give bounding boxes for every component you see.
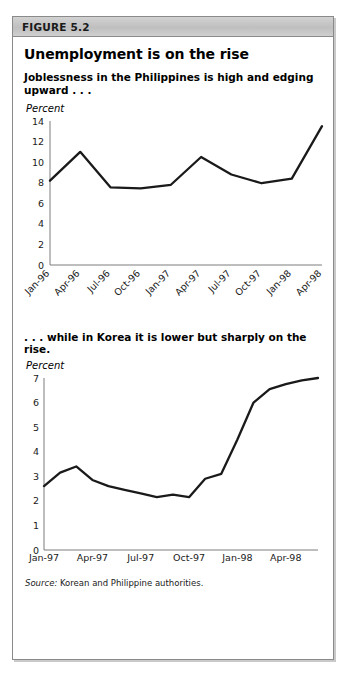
y-axis-tick-label: 7 [33, 373, 39, 384]
y-axis-tick-label: 10 [32, 157, 44, 168]
philippines-unemployment-chart: 02468101214Jan-96Apr-96Jul-96Oct-96Jan-9… [24, 115, 324, 323]
y-axis-tick-label: 2 [33, 495, 39, 506]
source-label: Source: [25, 578, 57, 588]
chart-philippines: 02468101214Jan-96Apr-96Jul-96Oct-96Jan-9… [24, 115, 323, 323]
x-axis-tick-label: Jan-96 [24, 268, 51, 298]
y-axis-tick-label: 3 [33, 471, 39, 482]
y-axis-tick-label: 12 [32, 136, 44, 147]
y-axis-tick-label: 5 [33, 422, 39, 433]
x-axis-tick-label: Apr-96 [52, 268, 82, 298]
x-axis-tick-label: Oct-97 [233, 268, 263, 298]
x-axis-tick-label: Jan-97 [28, 552, 59, 563]
y-axis-tick-label: 1 [33, 520, 39, 531]
x-axis-tick-label: Jul-97 [126, 552, 154, 563]
y-axis-tick-label: 6 [33, 397, 39, 408]
source-note: Source: Korean and Philippine authoritie… [25, 578, 323, 588]
x-axis-tick-label: Apr-97 [173, 268, 203, 298]
chart-axes [50, 121, 322, 265]
figure-box: FIGURE 5.2 Unemployment is on the rise J… [12, 16, 334, 660]
y-axis-tick-label: 6 [38, 198, 44, 209]
figure-number-label: FIGURE 5.2 [22, 21, 90, 33]
x-axis-tick-label: Oct-97 [173, 552, 205, 563]
chart-axes [44, 378, 318, 550]
y-axis-tick-label: 4 [38, 218, 44, 229]
korea-unemployment-chart: 01234567Jan-97Apr-97Jul-97Oct-97Jan-98Ap… [24, 372, 324, 572]
x-axis-tick-label: Apr-98 [270, 552, 301, 563]
x-axis-tick-label: Jul-97 [205, 268, 233, 296]
x-axis-tick-label: Jul-96 [84, 268, 112, 296]
y-axis-tick-label: 8 [38, 177, 44, 188]
x-axis-tick-label: Apr-97 [77, 552, 108, 563]
y-axis-tick-label: 14 [32, 116, 44, 127]
x-axis-tick-label: Apr-98 [293, 268, 323, 298]
data-series-line [50, 126, 322, 188]
data-series-line [44, 378, 318, 497]
figure-page: FIGURE 5.2 Unemployment is on the rise J… [0, 0, 348, 676]
x-axis-tick-label: Jan-97 [142, 268, 172, 298]
x-axis-tick-label: Jan-98 [221, 552, 252, 563]
panel1-caption: Joblessness in the Philippines is high a… [24, 71, 323, 97]
figure-title: Unemployment is on the rise [24, 46, 323, 62]
chart-korea: 01234567Jan-97Apr-97Jul-97Oct-97Jan-98Ap… [24, 372, 323, 572]
source-text: Korean and Philippine authorities. [60, 578, 203, 588]
figure-header: FIGURE 5.2 [13, 17, 333, 37]
panel1-unit-label: Percent [26, 103, 323, 114]
y-axis-tick-label: 4 [33, 446, 39, 457]
panel2-unit-label: Percent [26, 360, 323, 371]
figure-body: Unemployment is on the rise Joblessness … [13, 37, 333, 588]
x-axis-tick-label: Jan-98 [263, 268, 293, 298]
panel2-caption: . . . while in Korea it is lower but sha… [24, 331, 323, 355]
x-axis-tick-label: Oct-96 [112, 268, 142, 298]
y-axis-tick-label: 2 [38, 239, 44, 250]
